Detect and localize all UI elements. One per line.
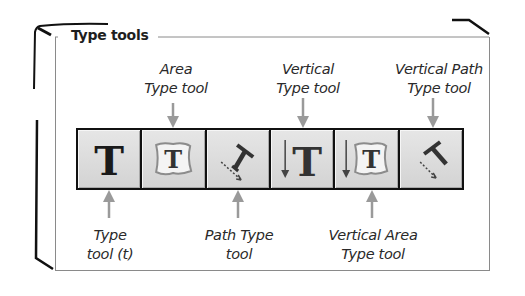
- callout-path-type-tool: Path Type tool: [197, 226, 281, 264]
- callout-vertical-path-type-tool: Vertical Path Type tool: [384, 60, 494, 98]
- vertical-type-tool-button[interactable]: T: [271, 130, 333, 188]
- type-tools-toolbar: T T T T: [76, 128, 464, 190]
- type-tool-button[interactable]: T: [78, 130, 140, 188]
- type-icon: T: [78, 130, 140, 188]
- vertical-area-type-icon: T: [335, 130, 397, 188]
- callout-line1: Vertical: [266, 60, 350, 79]
- callout-line2: tool (t): [72, 245, 148, 264]
- svg-text:T: T: [94, 137, 124, 184]
- callout-line1: Type: [72, 226, 148, 245]
- callout-vertical-type-tool: Vertical Type tool: [266, 60, 350, 98]
- callout-line2: tool: [197, 245, 281, 264]
- callout-line2: Type tool: [384, 79, 494, 98]
- vertical-area-type-tool-button[interactable]: T: [335, 130, 397, 188]
- panel-title: Type tools: [68, 27, 153, 43]
- svg-text:T: T: [292, 138, 322, 185]
- vertical-path-type-icon: [400, 130, 462, 188]
- area-type-tool-button[interactable]: T: [142, 130, 204, 188]
- callout-area-type-tool: Area Type tool: [136, 60, 216, 98]
- svg-text:T: T: [363, 145, 381, 174]
- vertical-type-icon: T: [271, 130, 333, 188]
- svg-text:T: T: [165, 145, 183, 174]
- callout-line1: Area: [136, 60, 216, 79]
- callout-line2: Type tool: [266, 79, 350, 98]
- path-type-tool-button[interactable]: [207, 130, 269, 188]
- callout-vertical-area-type-tool: Vertical Area Type tool: [318, 226, 428, 264]
- callout-line1: Path Type: [197, 226, 281, 245]
- callout-line2: Type tool: [136, 79, 216, 98]
- path-type-icon: [207, 130, 269, 188]
- callout-type-tool: Type tool (t): [72, 226, 148, 264]
- vertical-path-type-tool-button[interactable]: [400, 130, 462, 188]
- callout-line2: Type tool: [318, 245, 428, 264]
- callout-line1: Vertical Path: [384, 60, 494, 79]
- area-type-icon: T: [142, 130, 204, 188]
- callout-line1: Vertical Area: [318, 226, 428, 245]
